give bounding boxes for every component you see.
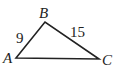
triangle-diagram: B A C 9 15	[0, 0, 117, 69]
vertex-label-a: A	[2, 50, 13, 66]
edge-label-ab: 9	[16, 30, 24, 46]
edge-label-bc: 15	[70, 24, 85, 40]
triangle-abc	[16, 22, 99, 59]
vertex-label-b: B	[39, 5, 48, 21]
vertex-label-c: C	[102, 52, 113, 68]
